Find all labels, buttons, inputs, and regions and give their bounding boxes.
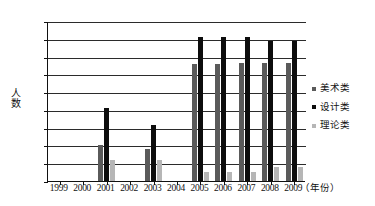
bar	[157, 160, 162, 181]
bar-cluster	[48, 21, 71, 181]
x-tick-label: 2005	[186, 184, 212, 194]
bar-cluster	[95, 21, 118, 181]
plot-area: 050100150200250300350400450	[47, 22, 305, 182]
bar-cluster	[71, 21, 94, 181]
bar	[298, 167, 303, 181]
x-tick-label: 2003	[140, 184, 166, 194]
legend-item[interactable]: 设计类	[312, 103, 350, 113]
legend-label: 美术类	[320, 84, 350, 94]
x-tick-label: 2004	[163, 184, 189, 194]
y-tick-mark	[44, 182, 48, 183]
bar-cluster	[236, 21, 259, 181]
bar	[251, 172, 256, 181]
bar	[98, 145, 103, 181]
bar-cluster	[118, 21, 141, 181]
bar-chart: 人数 050100150200250300350400450 199920002…	[0, 0, 375, 206]
bar-cluster	[165, 21, 188, 181]
x-tick-label: 1999	[46, 184, 72, 194]
legend: 美术类设计类理论类	[312, 84, 350, 131]
x-axis-labels: 1999200020012002200320042005200620072008…	[40, 184, 330, 198]
legend-swatch-icon	[312, 124, 316, 128]
legend-swatch-icon	[312, 105, 316, 109]
bar	[221, 37, 226, 181]
bar	[104, 108, 109, 181]
legend-item[interactable]: 理论类	[312, 121, 350, 131]
bar	[262, 63, 267, 181]
bar-cluster	[212, 21, 235, 181]
x-axis-unit-label: （年份）	[300, 184, 340, 194]
bar	[239, 63, 244, 181]
bar	[192, 64, 197, 181]
legend-label: 理论类	[320, 121, 350, 131]
x-tick-label: 2008	[257, 184, 283, 194]
bar	[215, 64, 220, 181]
bar-cluster	[283, 21, 306, 181]
bar	[274, 167, 279, 181]
bar	[204, 172, 209, 181]
bar	[151, 125, 156, 181]
x-tick-label: 2007	[233, 184, 259, 194]
legend-label: 设计类	[320, 103, 350, 113]
bar-cluster	[189, 21, 212, 181]
x-tick-label: 2002	[116, 184, 142, 194]
bar	[145, 149, 150, 181]
bar-cluster	[142, 21, 165, 181]
bar	[292, 41, 297, 181]
bar	[110, 160, 115, 181]
bar	[227, 172, 232, 181]
bar	[286, 63, 291, 181]
legend-item[interactable]: 美术类	[312, 84, 350, 94]
x-tick-label: 2000	[69, 184, 95, 194]
legend-swatch-icon	[312, 87, 316, 91]
x-tick-label: 2001	[93, 184, 119, 194]
bar	[245, 37, 250, 181]
bar	[268, 41, 273, 181]
bar-cluster	[259, 21, 282, 181]
x-tick-label: 2006	[210, 184, 236, 194]
bar	[198, 37, 203, 181]
y-axis-label: 人数	[9, 88, 19, 108]
